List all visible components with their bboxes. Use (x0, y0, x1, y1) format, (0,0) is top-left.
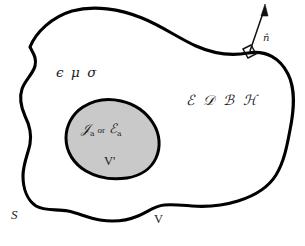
surface-label-S: S (11, 207, 18, 222)
normal-vector-arrowhead (261, 4, 268, 16)
em-volume-diagram: n̂ ϵ μ σ ℰ 𝒟 ℬ ℋ 𝒥aorℰa V' S V (0, 0, 305, 246)
conjunction-or-label: or (97, 125, 105, 135)
inner-volume-label-V-prime: V' (104, 154, 115, 168)
field-quantities-label: ℰ 𝒟 ℬ ℋ (186, 92, 259, 108)
outer-boundary-surface-S (21, 8, 294, 221)
impressed-field-subscript: a (117, 129, 122, 138)
medium-parameters-label: ϵ μ σ (56, 64, 98, 80)
normal-vector-label: n̂ (263, 32, 269, 43)
diagram-canvas: n̂ ϵ μ σ ℰ 𝒟 ℬ ℋ 𝒥aorℰa V' S V (0, 0, 305, 246)
outer-volume-label-V: V (154, 212, 163, 226)
impressed-current-subscript: a (90, 129, 95, 138)
